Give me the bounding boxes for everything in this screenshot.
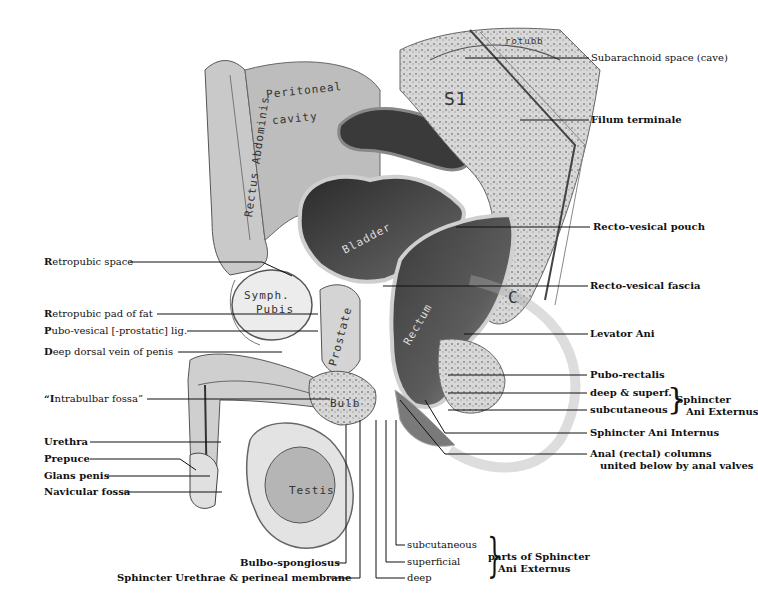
- label-superficial: superficial: [407, 556, 460, 568]
- label-pubo-rectalis: Pubo-rectalis: [590, 369, 665, 381]
- label-subarachnoid: Subarachnoid space (cave): [591, 52, 728, 64]
- label-intrabulbar-fossa: “Intrabulbar fossa”: [44, 393, 143, 405]
- label-deep-dorsal-vein: Deep dorsal vein of penis: [44, 346, 173, 358]
- label-anal-columns-1: Anal (rectal) columns: [590, 448, 712, 460]
- label-recto-vesical-fascia: Recto-vesical fascia: [590, 280, 700, 292]
- label-parts-group-1: parts of Sphincter: [488, 551, 590, 563]
- label-parts-group-2: Ani Externus: [498, 563, 570, 575]
- label-anal-columns-2: united below by anal valves: [600, 460, 753, 472]
- label-navicular-fossa: Navicular fossa: [44, 486, 130, 498]
- label-rotubb: rotubb: [505, 36, 544, 46]
- label-bulbo-spongiosus: Bulbo-spongiosus: [240, 557, 340, 569]
- label-sphincter-group-2: Ani Externus: [686, 406, 758, 418]
- label-levator-ani: Levator Ani: [590, 328, 655, 340]
- label-bulb: Bulb: [330, 397, 361, 410]
- label-subcutaneous-bottom: subcutaneous: [407, 539, 477, 551]
- label-c: C: [508, 288, 519, 307]
- label-glans-penis: Glans penis: [44, 470, 109, 482]
- label-sphincter-urethrae: Sphincter Urethrae & perineal membrane: [117, 572, 351, 584]
- label-testis: Testis: [289, 484, 335, 497]
- label-sphincter-group-1: Sphincter: [676, 394, 731, 406]
- label-recto-vesical-pouch: Recto-vesical pouch: [593, 221, 705, 233]
- label-prepuce: Prepuce: [44, 453, 90, 465]
- anal-sphincter: [438, 339, 505, 413]
- label-deep: deep: [407, 572, 432, 584]
- label-filum-terminale: Filum terminale: [591, 114, 682, 126]
- label-urethra: Urethra: [44, 436, 88, 448]
- label-retropubic-pad: Retropubic pad of fat: [44, 308, 153, 320]
- label-deep-superf: deep & superf.: [590, 387, 672, 399]
- label-s1: S1: [444, 88, 468, 109]
- label-symph: Symph.: [244, 289, 290, 302]
- glans: [190, 453, 218, 508]
- label-pubis: Pubis: [256, 303, 294, 316]
- label-subcutaneous-right: subcutaneous: [590, 404, 668, 416]
- label-pubo-vesical: Pubo-vesical [-prostatic] lig.: [44, 325, 187, 337]
- label-retropubic-space: Retropubic space: [44, 256, 133, 268]
- label-sphincter-ani-internus: Sphincter Ani Internus: [590, 427, 719, 439]
